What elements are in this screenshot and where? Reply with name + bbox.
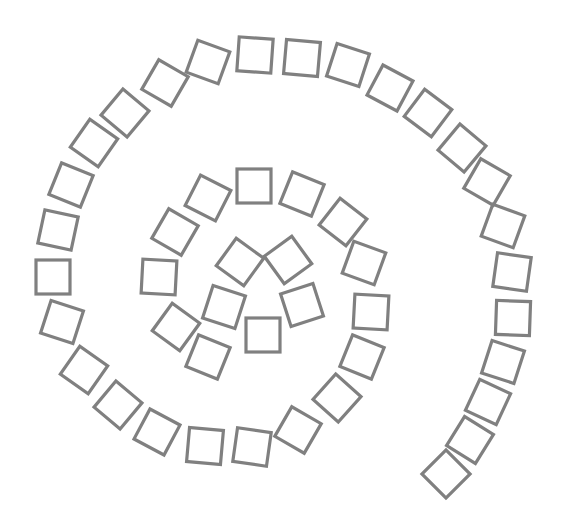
spiral-square: [482, 341, 525, 384]
spiral-square: [481, 204, 525, 248]
spiral-square: [185, 175, 231, 221]
spiral-square: [353, 294, 389, 330]
spiral-square: [36, 260, 70, 294]
spiral-square: [41, 301, 84, 344]
spiral-square: [319, 198, 367, 246]
spiral-square: [94, 381, 142, 429]
spiral-square: [141, 259, 177, 295]
spiral-square: [275, 407, 321, 453]
spiral-square: [101, 89, 149, 137]
spiral-square: [367, 65, 413, 111]
spiral-square: [465, 379, 510, 424]
pentagon-square: [216, 238, 263, 285]
spiral-square: [60, 346, 107, 393]
pentagon-square: [203, 286, 246, 329]
spiral-square: [152, 209, 198, 255]
spiral-square: [142, 60, 188, 106]
pentagon-square: [246, 318, 280, 352]
spiral-square: [284, 40, 321, 77]
spiral-square: [187, 428, 224, 465]
spiral-square: [493, 253, 531, 291]
spiral-square: [342, 241, 386, 285]
spiral-square: [340, 335, 384, 379]
spiral-square: [186, 40, 230, 84]
pentagon-square: [281, 284, 324, 327]
spiral-square: [237, 169, 271, 203]
spiral-square: [38, 210, 78, 250]
spiral-square: [152, 303, 199, 350]
spiral-square: [70, 119, 117, 166]
spiral-square: [186, 335, 230, 379]
spiral-square: [327, 44, 370, 87]
spiral-diagram: [0, 0, 562, 525]
spiral-square: [495, 300, 530, 335]
spiral-square: [404, 89, 452, 137]
spiral-square: [313, 374, 361, 422]
spiral-square: [134, 409, 180, 455]
spiral-square: [49, 163, 93, 207]
spiral-square: [237, 37, 273, 73]
spiral-square: [280, 172, 324, 216]
spiral-of-squares: [0, 0, 562, 525]
spiral-square: [233, 428, 271, 466]
pentagon-square: [264, 236, 311, 283]
